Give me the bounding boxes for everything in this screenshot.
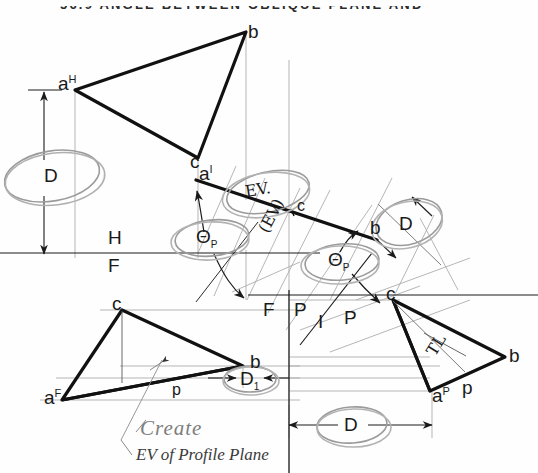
point-label-p-frontal: p <box>172 382 181 398</box>
point-label-p-profile: p <box>462 378 473 397</box>
fold-label-h: H <box>108 228 122 247</box>
dimension-label-depth-left: D <box>44 166 58 185</box>
note-ev-of-profile-plane: EV of Profile Plane <box>136 446 269 463</box>
vertex-label-b-horizontal: b <box>248 22 259 41</box>
auxiliary-edge-view-line <box>196 180 377 240</box>
fold-line-fp <box>248 290 538 473</box>
vertex-label-b-profile: b <box>509 346 520 365</box>
fold-label-i-aux: I <box>318 312 323 331</box>
vertex-label-c-frontal: c <box>112 294 122 313</box>
dimension-label-depth-aux: D <box>399 214 413 233</box>
fold-label-f-profile: F <box>263 300 275 319</box>
horizontal-view-triangle <box>75 32 246 158</box>
angle-label-theta-p-right: ΘP <box>328 250 349 273</box>
frontal-view-triangle <box>62 310 243 400</box>
vertex-label-a-profile: aP <box>432 386 450 405</box>
note-leader-lines <box>121 360 162 455</box>
profile-view-triangle <box>393 300 505 391</box>
fold-label-p-profile: P <box>294 300 307 319</box>
edge-view-label: EV. <box>244 180 272 200</box>
angle-label-theta-p-left: ΘP <box>196 227 217 250</box>
fold-label-p-aux: P <box>344 308 357 327</box>
dimension-label-depth-one: D1 <box>240 369 259 392</box>
vertex-label-a-horizontal: aH <box>58 74 77 93</box>
vertex-label-a-frontal: aF <box>44 388 61 407</box>
vertex-label-c-auxiliary: c <box>297 198 305 214</box>
vertex-label-b-auxiliary: b <box>370 218 381 237</box>
vertex-label-c-profile: c <box>386 284 396 303</box>
dimension-label-depth-bottom: D <box>344 415 358 434</box>
note-create: Create <box>140 418 202 439</box>
drawing-canvas <box>0 0 538 473</box>
fold-label-f: F <box>108 256 120 275</box>
vertex-label-a-auxiliary: aI <box>199 164 213 183</box>
